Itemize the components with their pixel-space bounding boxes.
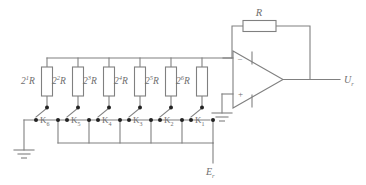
switch-label-k3: K3 [133,115,143,127]
switch-label-k1: K1 [195,115,205,127]
output-voltage-label: Ur [344,74,354,87]
feedback-resistor-label: R [255,7,263,18]
resistor-label-r2: 22R [52,74,66,86]
switch-labels: K6 K5 K4 K3 K2 K1 [40,115,205,127]
resistor-label-r4: 24R [114,74,128,86]
switch-label-k5: K5 [71,115,81,127]
circuit-svg: R 21R 22R 23R 24R 25R 26R K6 K5 K4 [0,0,366,185]
opamp-noninverting-sign: + [238,89,243,99]
switch-label-k4: K4 [102,115,112,127]
resistor-label-r3: 23R [83,74,97,86]
ground-symbol-left [14,150,34,158]
circuit-diagram: R 21R 22R 23R 24R 25R 26R K6 K5 K4 [0,0,366,185]
reference-voltage-label: Er [205,166,215,179]
resistor-label-r5: 25R [145,74,159,86]
switch-blades [36,108,202,117]
feedback-resistor-body [243,21,276,32]
resistor-label-r1: 21R [21,74,35,86]
ground-symbol-opamp [212,113,232,121]
switch-label-k2: K2 [164,115,174,127]
feedback-wire-right [276,26,310,79]
switch-label-k6: K6 [40,115,50,127]
resistor-label-r6: 26R [176,74,190,86]
